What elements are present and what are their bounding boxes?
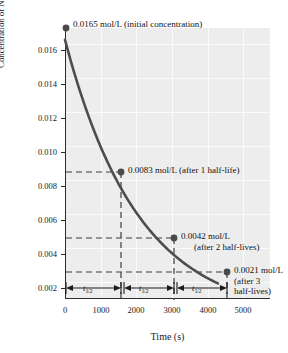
half-life-subscript: 1/2 (194, 288, 201, 294)
half-life-bracket-3 (177, 282, 227, 294)
half-life-bracket-1 (66, 282, 121, 294)
half-life-subscript: 1/2 (85, 288, 92, 294)
annotation-initial: 0.0165 mol/L (initial concentration) (73, 19, 202, 30)
half-life-label-1: t1/2 (83, 283, 92, 294)
annotation-halflife-2-value: 0.0042 mol/L (181, 231, 259, 242)
data-point-initial (63, 25, 70, 32)
annotation-halflife-2: 0.0042 mol/L (after 2 half-lives) (181, 231, 259, 252)
annotation-halflife-2-note: (after 2 half-lives) (181, 242, 259, 253)
annotation-halflife-1-value: 0.0083 mol/L (128, 165, 177, 175)
annotation-halflife-3: 0.0021 mol/L (after 3 half-lives) (234, 265, 283, 297)
curve-layer (0, 0, 288, 353)
annotation-halflife-1-note: (after 1 half-life) (179, 165, 239, 175)
half-life-label-3: t1/2 (192, 283, 201, 294)
data-point-halflife-2 (171, 235, 178, 242)
annotation-halflife-1: 0.0083 mol/L (after 1 half-life) (128, 165, 239, 176)
annotation-halflife-3-note-line2: half-lives) (234, 286, 283, 297)
half-life-label-2: t1/2 (139, 283, 148, 294)
annotation-initial-value: 0.0165 mol/L (73, 19, 122, 29)
chart-figure: 0.016 0.014 0.012 0.010 0.008 0.006 0.00… (0, 0, 288, 353)
annotation-halflife-3-note-line1: (after 3 (234, 276, 283, 287)
data-point-halflife-3 (224, 269, 231, 276)
annotation-initial-note: (initial concentration) (124, 19, 202, 29)
data-point-halflife-1 (118, 169, 125, 176)
annotation-halflife-3-value: 0.0021 mol/L (234, 265, 283, 276)
half-life-subscript: 1/2 (141, 288, 148, 294)
half-life-bracket-2 (124, 282, 174, 294)
